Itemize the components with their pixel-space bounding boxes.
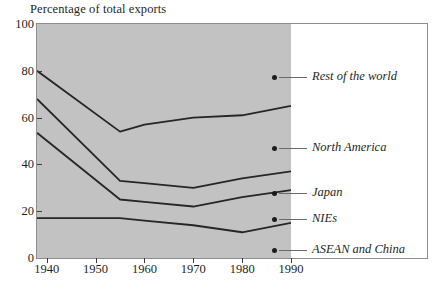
y-axis-tick-mark — [37, 118, 42, 119]
legend-marker-dot — [272, 75, 277, 80]
legend-marker-dot — [272, 248, 277, 253]
x-axis-tick-mark — [242, 258, 243, 263]
x-axis-tick-mark — [144, 258, 145, 263]
legend-marker-dot — [272, 146, 277, 151]
legend-label: NIEs — [312, 211, 337, 226]
legend-leader-line — [279, 77, 307, 78]
legend-marker-dot — [272, 191, 277, 196]
legend-label: Rest of the world — [312, 69, 397, 84]
legend-leader-line — [279, 250, 307, 251]
y-axis-tick-mark — [37, 164, 42, 165]
chart-legend: Rest of the worldNorth AmericaJapanNIEsA… — [0, 0, 444, 293]
legend-leader-line — [279, 148, 307, 149]
legend-label: ASEAN and China — [312, 242, 405, 257]
x-axis-tick-mark — [193, 258, 194, 263]
y-axis-tick-mark — [37, 71, 42, 72]
y-axis-tick-mark — [37, 211, 42, 212]
legend-leader-line — [279, 219, 307, 220]
legend-label: North America — [312, 140, 386, 155]
legend-leader-line — [279, 193, 307, 194]
legend-label: Japan — [312, 185, 343, 200]
x-axis-tick-mark — [47, 258, 48, 263]
legend-marker-dot — [272, 217, 277, 222]
chart-container: Percentage of total exports 100806040200… — [0, 0, 444, 293]
x-axis-tick-mark — [291, 258, 292, 263]
x-axis-tick-mark — [96, 258, 97, 263]
